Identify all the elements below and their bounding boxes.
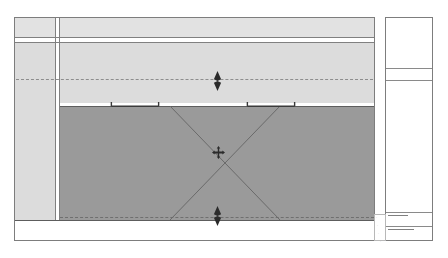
top-band-rule xyxy=(15,37,374,38)
micro-note-box xyxy=(374,214,386,241)
panel-row-3[interactable] xyxy=(386,81,432,212)
bottom-arrow-grip[interactable] xyxy=(213,206,222,226)
top-arrow-grip[interactable] xyxy=(213,71,222,91)
lower-base-band xyxy=(15,224,374,240)
drawing-frame[interactable] xyxy=(14,17,375,241)
selection-bottom-edge xyxy=(15,220,374,221)
left-wall-column xyxy=(15,42,55,220)
upper-main-band xyxy=(15,42,374,106)
column-edge-left xyxy=(55,18,56,220)
selection-diagonals xyxy=(60,106,374,220)
top-band-rule-lower xyxy=(15,42,374,43)
title-block-column[interactable] xyxy=(385,17,433,241)
center-move-grip[interactable] xyxy=(212,146,225,159)
panel-row-1[interactable] xyxy=(386,19,432,68)
drawing-canvas[interactable]: · · · · xyxy=(0,0,448,258)
upper-wall-band xyxy=(15,18,374,37)
upper-hidden-line xyxy=(16,79,373,80)
panel-row-2[interactable] xyxy=(386,69,432,80)
left-bracket-grip[interactable] xyxy=(107,101,163,108)
right-bracket-grip[interactable] xyxy=(243,101,299,108)
